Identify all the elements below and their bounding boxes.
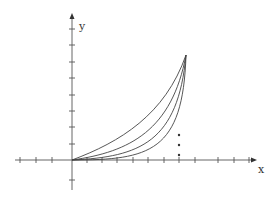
curve-family-diagram: x y [0,0,276,202]
ellipsis-dots [178,134,180,156]
curve-2 [72,55,186,160]
y-axis [69,16,75,190]
curve-3 [72,55,186,160]
curve-1 [72,55,186,160]
x-axis-label: x [258,163,265,176]
curve-family [72,55,186,160]
x-axis [15,157,254,163]
curve-4 [72,55,186,160]
x-axis-arrow-icon [251,158,257,163]
y-axis-label: y [78,20,86,33]
y-axis-arrow-icon [70,13,75,19]
